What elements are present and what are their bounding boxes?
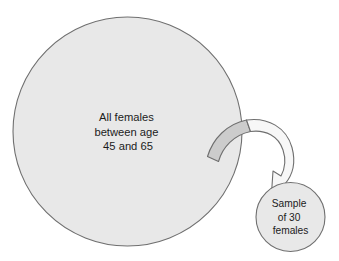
population-label-line-2: between age (94, 126, 158, 138)
population-label-line-3: 45 and 65 (103, 140, 153, 152)
population-label-line-1: All females (99, 111, 154, 123)
sampling-diagram: All females between age 45 and 65 Sample… (0, 0, 339, 261)
population-label: All females between age 45 and 65 (94, 111, 161, 152)
sample-label-line-3: females (273, 225, 309, 236)
sample-label-line-1: Sample (272, 198, 307, 209)
sample-label-line-2: of 30 (278, 212, 301, 223)
diagram-canvas: All females between age 45 and 65 Sample… (0, 0, 339, 261)
